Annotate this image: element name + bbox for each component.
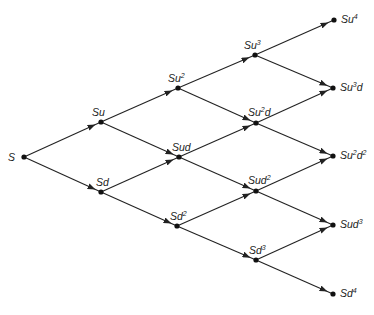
node-dot-Sud3 [330, 222, 335, 227]
node-dot-Sud2 [253, 188, 258, 193]
edge-Sd-to-Sud [101, 157, 179, 192]
node-dot-Sd4 [330, 291, 335, 296]
node-dot-Su3d [330, 85, 335, 90]
label-base: S [8, 151, 15, 163]
node-dot-S [21, 154, 26, 159]
label-base: Sud [172, 141, 191, 153]
label-base: Su [92, 106, 105, 118]
node-label-Sd3: Sd3 [249, 245, 266, 256]
node-dot-Su4 [331, 17, 336, 22]
node-label-Sud3: Sud3 [340, 219, 363, 230]
label-base: Sd [249, 244, 262, 256]
label-exponent: 2 [181, 72, 185, 79]
node-label-Sd4: Sd4 [340, 288, 357, 299]
label-base: Su [248, 106, 261, 118]
node-label-Su2d: Su2d [248, 107, 271, 118]
node-dot-Su3 [252, 52, 257, 57]
edge-S-to-Sd [24, 157, 101, 192]
label-base: Sud [340, 218, 359, 230]
label-exponent: 2 [183, 210, 187, 217]
label-exponent: 3 [359, 218, 363, 225]
nodes-layer [21, 17, 336, 296]
edge-Sud-to-Sud2 [179, 157, 256, 191]
edge-Su2-to-Su3 [178, 55, 255, 88]
node-label-Sd2: Sd2 [170, 211, 187, 222]
edge-Su-to-Sud [101, 122, 179, 157]
label-tail: d [265, 106, 271, 118]
node-label-Sud: Sud [172, 142, 191, 153]
node-label-Su4: Su4 [341, 14, 358, 25]
edge-Su-to-Su2 [101, 88, 178, 122]
label-exponent: 3 [262, 244, 266, 251]
edge-Su2-to-Su2d [178, 88, 256, 123]
node-dot-Sd [98, 189, 103, 194]
node-label-Sud2: Sud2 [248, 175, 271, 186]
edge-Sd3-to-Sud3 [256, 225, 333, 260]
node-dot-Sd3 [253, 257, 258, 262]
edge-Su2d-to-Su2d2 [256, 123, 333, 156]
node-label-Su3: Su3 [244, 40, 261, 51]
node-label-Su2: Su2 [168, 73, 185, 84]
label-exponent: 4 [354, 13, 358, 20]
edge-Sud2-to-Sud3 [256, 191, 333, 225]
node-dot-Su2d [253, 120, 258, 125]
label-tail: d [357, 81, 363, 93]
binomial-tree-diagram [0, 0, 374, 315]
node-label-Su2d2: Su2d2 [340, 150, 367, 161]
label-base: Sd [340, 287, 353, 299]
label-base: Su [168, 72, 181, 84]
node-dot-Su2 [175, 85, 180, 90]
edge-Su3-to-Su4 [255, 20, 334, 55]
label-exponent: 4 [353, 287, 357, 294]
node-dot-Sud [176, 154, 181, 159]
edge-Sd-to-Sd2 [101, 192, 177, 226]
node-dot-Sd2 [174, 223, 179, 228]
node-dot-Su2d2 [330, 153, 335, 158]
label-exponent: 2 [267, 174, 271, 181]
label-exponent: 3 [257, 39, 261, 46]
node-label-S: S [8, 152, 15, 163]
label-base: Sud [248, 174, 267, 186]
edge-S-to-Su [24, 122, 101, 157]
label-exponent: 2 [363, 149, 367, 156]
label-base: Su [340, 81, 353, 93]
edge-Sd2-to-Sud2 [177, 191, 256, 226]
label-base: Su [340, 149, 353, 161]
label-base: Su [341, 13, 354, 25]
edge-Su3-to-Su3d [255, 55, 333, 88]
edge-Sd3-to-Sd4 [256, 260, 333, 294]
node-label-Sd: Sd [96, 177, 109, 188]
label-base: Su [244, 39, 257, 51]
node-label-Su3d: Su3d [340, 82, 363, 93]
node-dot-Su [98, 119, 103, 124]
node-label-Su: Su [92, 107, 105, 118]
label-base: Sd [170, 210, 183, 222]
edge-Sd2-to-Sd3 [177, 226, 256, 260]
label-base: Sd [96, 176, 109, 188]
